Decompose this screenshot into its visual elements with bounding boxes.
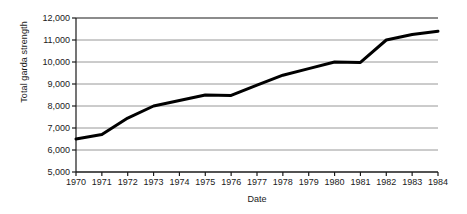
- x-tick-label: 1984: [421, 177, 455, 188]
- x-axis-title: Date: [76, 194, 438, 204]
- x-tick-marks: [76, 172, 438, 176]
- data-series-line: [76, 31, 438, 139]
- line-chart: Total garda strength 12,00011,00010,0009…: [0, 0, 467, 214]
